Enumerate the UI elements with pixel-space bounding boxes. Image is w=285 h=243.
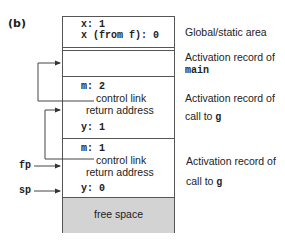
link-arrows (0, 0, 285, 243)
diagram: (b) x: 1 x (from f): 0 m: 2 control link… (0, 0, 285, 243)
control-link-arrow-1 (38, 63, 94, 101)
control-link-arrow-2 (45, 110, 94, 159)
